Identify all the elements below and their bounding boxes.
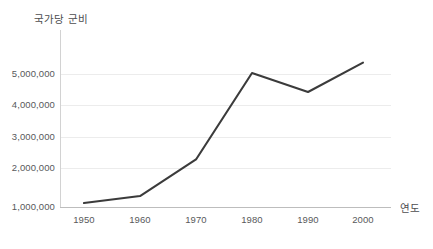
data-series-line [84, 63, 363, 203]
line-chart: 국가당 군비 연도 5,000,000 4,000,000 3,000,000 … [0, 0, 433, 249]
series-layer [0, 0, 433, 249]
